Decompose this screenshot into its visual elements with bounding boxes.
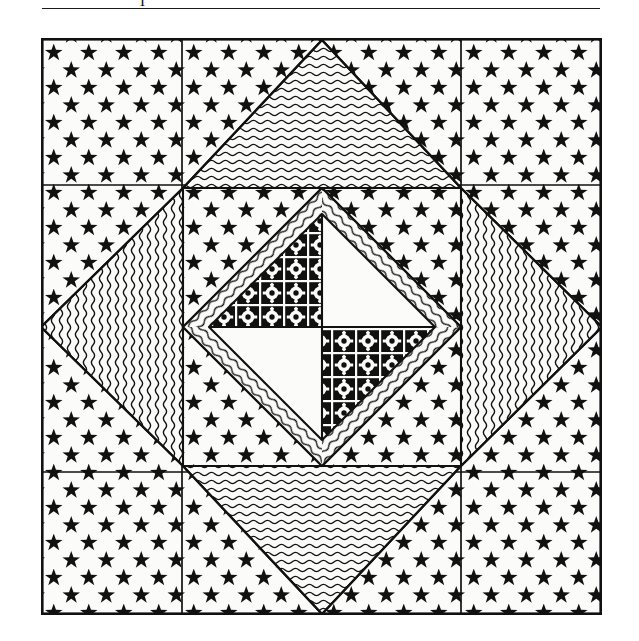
figure-star-quilt-block <box>41 38 602 615</box>
header-rule <box>42 8 600 9</box>
quilt-block-drawing <box>41 38 602 615</box>
page-canvas: I <box>0 0 639 641</box>
clipped-text-fragment: I <box>140 0 154 6</box>
